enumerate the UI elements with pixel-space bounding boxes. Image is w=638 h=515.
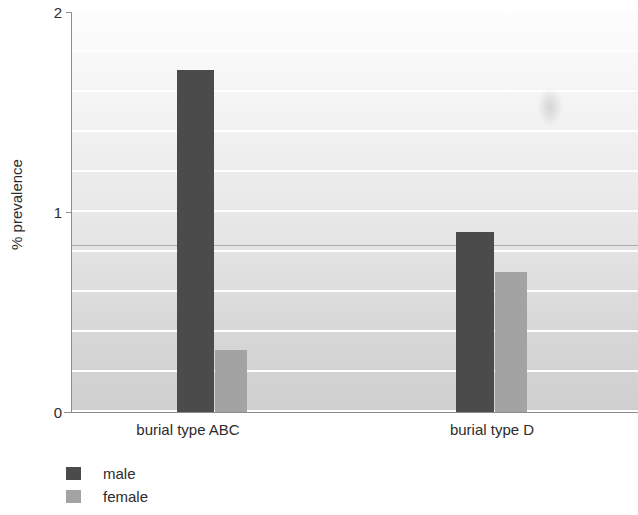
x-tick-label-burial-type-abc: burial type ABC bbox=[88, 421, 288, 438]
plot-area bbox=[72, 12, 638, 412]
legend-label-male: male bbox=[103, 466, 136, 481]
scan-smudge bbox=[537, 87, 563, 127]
gridline bbox=[72, 90, 638, 92]
y-axis-title: % prevalence bbox=[8, 125, 25, 285]
male-swatch-icon bbox=[66, 467, 81, 480]
gridline bbox=[72, 250, 638, 252]
bar-male-burial-type-abc bbox=[177, 70, 214, 412]
gridline bbox=[72, 330, 638, 332]
bar-female-burial-type-abc bbox=[215, 350, 247, 412]
gridline bbox=[72, 170, 638, 172]
legend: male female bbox=[66, 462, 148, 508]
gridline bbox=[72, 50, 638, 52]
gridline bbox=[72, 370, 638, 372]
gridline bbox=[72, 130, 638, 132]
bar-chart: 2 1 0 % prevalence burial type ABC buria… bbox=[0, 0, 638, 515]
legend-label-female: female bbox=[103, 489, 148, 504]
legend-item-female: female bbox=[66, 485, 148, 508]
reference-line bbox=[72, 245, 638, 246]
gridline bbox=[72, 210, 638, 212]
legend-item-male: male bbox=[66, 462, 148, 485]
x-tick-label-burial-type-d: burial type D bbox=[392, 421, 592, 438]
bar-male-burial-type-d bbox=[456, 232, 494, 412]
bar-female-burial-type-d bbox=[495, 272, 527, 412]
y-tick-label-2: 2 bbox=[16, 5, 72, 20]
female-swatch-icon bbox=[66, 490, 81, 503]
y-tick-label-0: 0 bbox=[16, 405, 72, 420]
x-axis-line bbox=[64, 412, 638, 413]
gridline bbox=[72, 290, 638, 292]
